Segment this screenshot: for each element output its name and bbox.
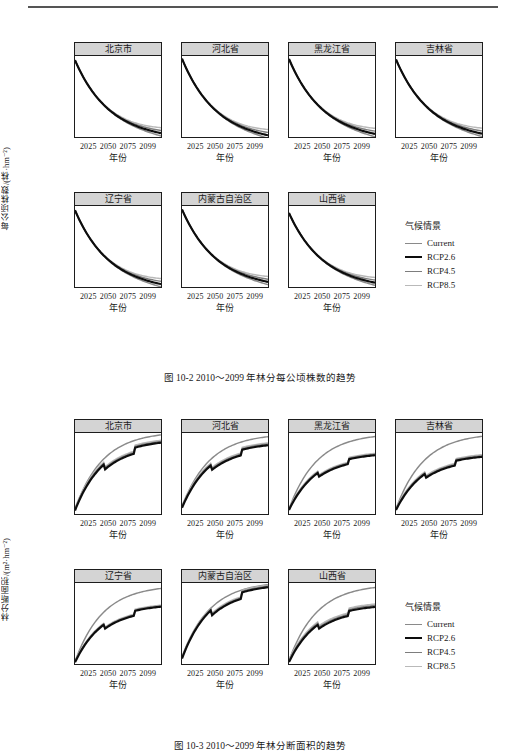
y-tick-mark (288, 622, 289, 623)
x-axis-ticks: 2025205020752099 (278, 519, 386, 529)
y-tick-mark (181, 491, 182, 492)
y-tick-mark (74, 600, 75, 601)
x-tick-label: 2099 (246, 292, 263, 301)
series-line-Current (289, 587, 375, 660)
x-tick-label: 2099 (246, 519, 263, 528)
plot-area: 900600300 (395, 55, 483, 138)
y-tick-mark (74, 95, 75, 96)
x-tick-label: 2099 (139, 292, 156, 301)
x-tick-label: 2099 (139, 142, 156, 151)
panel-辽宁省: 辽宁省10007505002502025205020752099年份 (74, 192, 162, 314)
legend-swatch-icon (405, 652, 422, 653)
panel-内蒙古自治区: 内蒙古自治区9006003002025205020752099年份 (181, 192, 269, 314)
series-line-RCP2.6 (182, 445, 268, 508)
y-tick-mark (74, 121, 75, 122)
x-tick-label: 2099 (460, 519, 477, 528)
plot-area: 1917151311 (181, 582, 269, 665)
plot-area: 25.022.520.017.515.012.5 (74, 582, 162, 665)
panel-title: 吉林省 (395, 42, 483, 56)
x-tick-label: 2050 (207, 669, 224, 678)
x-axis-title: 年份 (288, 302, 376, 314)
x-axis-title: 年份 (395, 529, 483, 541)
legend-item-Current[interactable]: Current (405, 236, 455, 250)
y-tick-mark (74, 450, 75, 451)
x-tick-label: 2075 (120, 292, 137, 301)
legend-item-Current[interactable]: Current (405, 617, 455, 631)
legend-swatch-icon (405, 256, 422, 258)
y-tick-mark (288, 437, 289, 438)
panel-title: 北京市 (74, 42, 162, 56)
legend-item-RCP4.5[interactable]: RCP4.5 (405, 645, 455, 659)
x-tick-label: 2099 (246, 142, 263, 151)
x-tick-label: 2099 (353, 519, 370, 528)
series-line-RCP4.5 (289, 213, 375, 280)
y-tick-mark (395, 491, 396, 492)
legend-item-label: Current (427, 619, 455, 629)
series-line-Current (396, 436, 482, 509)
series-line-RCP8.5 (75, 440, 161, 508)
y-tick-mark (181, 643, 182, 644)
legend-swatch-icon (405, 243, 422, 244)
x-tick-label: 2025 (80, 292, 97, 301)
y-tick-mark (288, 70, 289, 71)
x-axis-ticks: 2025205020752099 (171, 142, 279, 152)
series-line-Current (396, 59, 482, 136)
panel-title: 黑龙江省 (288, 42, 376, 56)
x-tick-label: 2050 (100, 519, 117, 528)
y-tick-mark (74, 474, 75, 475)
x-axis-ticks: 2025205020752099 (171, 519, 279, 529)
plot-area: 20.017.515.0 (74, 432, 162, 515)
y-tick-mark (74, 660, 75, 661)
series-line-RCP2.6 (289, 607, 375, 662)
series-line-RCP4.5 (182, 209, 268, 279)
series-line-Current (75, 588, 161, 661)
series-line-RCP4.5 (289, 59, 375, 131)
x-tick-label: 2099 (139, 669, 156, 678)
plot-area: 171513 (288, 582, 376, 665)
x-tick-label: 2075 (441, 519, 458, 528)
legend-swatch-icon (405, 637, 422, 639)
x-tick-label: 2050 (100, 142, 117, 151)
x-tick-label: 2099 (353, 142, 370, 151)
legend-item-RCP2.6[interactable]: RCP2.6 (405, 631, 455, 645)
y-tick-mark (181, 510, 182, 511)
y-tick-mark (288, 272, 289, 273)
series-line-Current (182, 585, 268, 658)
x-axis-title: 年份 (181, 679, 269, 691)
x-tick-label: 2050 (314, 669, 331, 678)
x-axis-title: 年份 (181, 152, 269, 164)
y-tick-mark (288, 230, 289, 231)
legend-item-RCP8.5[interactable]: RCP8.5 (405, 278, 455, 292)
legend-title: 气候情景 (405, 219, 455, 232)
x-tick-label: 2025 (294, 142, 311, 151)
y-tick-mark (395, 508, 396, 509)
series-line-Current (289, 213, 375, 285)
legend-item-RCP8.5[interactable]: RCP8.5 (405, 659, 455, 673)
x-axis-ticks: 2025205020752099 (64, 669, 172, 679)
y-tick-mark (181, 220, 182, 221)
series-line-Current (75, 210, 161, 287)
y-tick-mark (181, 611, 182, 612)
legend-item-RCP4.5[interactable]: RCP4.5 (405, 264, 455, 278)
plot-area: 1000750500250 (181, 55, 269, 138)
x-axis-title: 年份 (288, 529, 376, 541)
legend-title: 气候情景 (405, 600, 455, 613)
x-axis-ticks: 2025205020752099 (64, 292, 172, 302)
x-tick-label: 2025 (294, 669, 311, 678)
y-tick-mark (181, 473, 182, 474)
x-axis-title: 年份 (181, 529, 269, 541)
legend-item-RCP2.6[interactable]: RCP2.6 (405, 250, 455, 264)
series-line-RCP8.5 (182, 443, 268, 506)
y-tick-mark (74, 615, 75, 616)
x-axis-ticks: 2025205020752099 (278, 292, 386, 302)
series-line-Current (75, 435, 161, 509)
legend-item-label: RCP2.6 (427, 252, 455, 262)
series-line-Current (289, 59, 375, 137)
x-tick-label: 2075 (334, 669, 351, 678)
panel-title: 河北省 (181, 42, 269, 56)
y-tick-mark (288, 209, 289, 210)
y-tick-mark (181, 126, 182, 127)
y-tick-mark (181, 81, 182, 82)
y-tick-mark (288, 479, 289, 480)
